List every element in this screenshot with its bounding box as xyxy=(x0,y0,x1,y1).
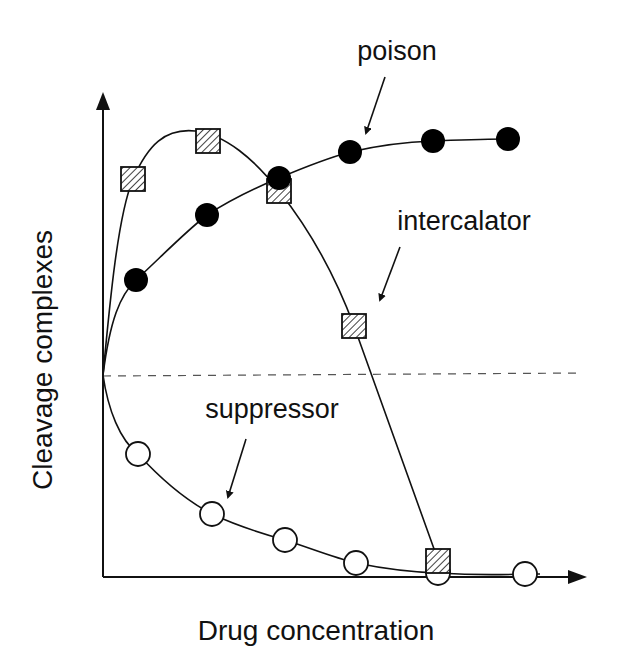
poison-arrow-icon xyxy=(366,77,385,133)
poison-point xyxy=(338,140,362,164)
intercalator-point xyxy=(426,549,450,573)
poison-point xyxy=(267,166,291,190)
poison-label: poison xyxy=(357,36,437,66)
poison-point xyxy=(124,268,148,292)
poison-point xyxy=(195,203,219,227)
intercalator-point xyxy=(121,167,145,191)
suppressor-arrow-icon xyxy=(228,439,246,497)
intercalator-markers xyxy=(121,129,450,573)
poison-curve xyxy=(103,139,508,375)
baseline-dashed xyxy=(103,373,582,376)
y-axis-arrow-icon xyxy=(96,92,110,110)
x-axis-arrow-icon xyxy=(568,570,587,584)
chart-canvas: poison intercalator suppressor Drug conc… xyxy=(0,0,628,664)
suppressor-label: suppressor xyxy=(205,394,339,424)
suppressor-point xyxy=(344,551,368,575)
suppressor-point xyxy=(513,562,537,586)
intercalator-arrow-icon xyxy=(380,247,400,300)
suppressor-point xyxy=(126,442,150,466)
intercalator-label: intercalator xyxy=(397,206,531,236)
y-axis-label: Cleavage complexes xyxy=(27,230,58,490)
x-axis-label: Drug concentration xyxy=(198,615,435,646)
poison-point xyxy=(421,129,445,153)
suppressor-markers xyxy=(126,442,537,586)
suppressor-point xyxy=(200,502,224,526)
suppressor-point xyxy=(273,528,297,552)
poison-point xyxy=(496,127,520,151)
intercalator-point xyxy=(196,129,220,153)
intercalator-point xyxy=(342,314,366,338)
